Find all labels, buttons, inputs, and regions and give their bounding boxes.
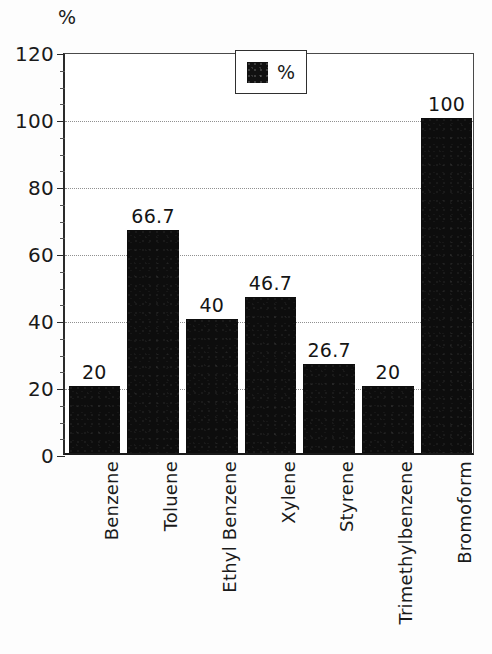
bar: 26.7 [303,364,355,453]
bar: 66.7 [127,230,179,453]
y-tick-major [57,456,65,457]
bar: 40 [186,319,238,453]
x-axis-label: Toluene [160,461,181,531]
y-tick-label: 120 [15,42,54,66]
bar-value-label: 66.7 [131,205,175,227]
bars-layer: 2066.74046.726.720100 [65,54,473,453]
bar-value-label: 26.7 [307,339,351,361]
x-axis-label: Benzene [101,461,122,540]
y-tick-label: 20 [28,377,54,401]
bar-value-label: 46.7 [249,272,293,294]
y-tick-major [57,255,65,256]
y-tick-major [57,121,65,122]
x-axis-label: Bromoform [454,461,475,564]
plot-area: 020406080100120 2066.74046.726.720100 [63,53,474,455]
y-tick-major [57,54,65,55]
bar-chart: % 020406080100120 2066.74046.726.720100 … [0,0,492,654]
legend-swatch-percent [247,62,268,83]
y-tick-label: 60 [28,243,54,267]
bar: 20 [362,386,414,453]
y-tick-label: 100 [15,109,54,133]
bar: 100 [421,118,473,453]
x-axis-label: Styrene [336,461,357,532]
bar-value-label: 20 [82,361,107,383]
bar-value-label: 20 [376,361,401,383]
bar-value-label: 40 [199,294,224,316]
y-tick-major [57,188,65,189]
bar-value-label: 100 [428,93,465,115]
y-axis-title: % [58,6,77,28]
y-tick-label: 0 [41,444,54,468]
bar: 46.7 [245,297,297,453]
legend: % [235,50,307,94]
x-axis-label: Xylene [278,461,299,524]
x-axis-labels-layer: BenzeneTolueneEthyl BenzeneXyleneStyrene… [63,461,474,651]
y-tick-major [57,389,65,390]
y-tick-label: 80 [28,176,54,200]
x-axis-label: Trimethylbenzene [395,461,416,625]
y-tick-major [57,322,65,323]
bar: 20 [69,386,121,453]
y-tick-label: 40 [28,310,54,334]
legend-label-percent: % [277,61,295,83]
x-axis-label: Ethyl Benzene [219,461,240,593]
